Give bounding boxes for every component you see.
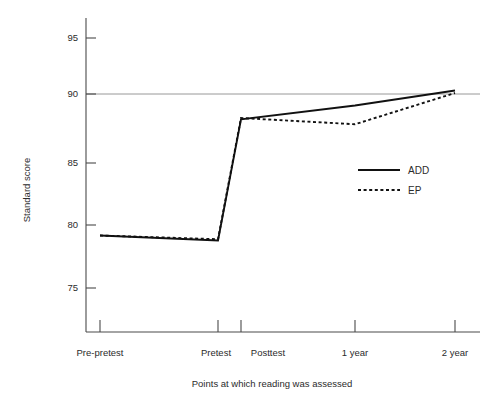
series-line-add (100, 91, 455, 241)
y-tick-label-95: 95 (67, 32, 78, 43)
x-tick-label-pretest: Pretest (201, 347, 231, 358)
chart-canvas: 95 90 85 80 75 Pre-pretest Pretest Postt… (0, 0, 498, 398)
x-axis-title: Points at which reading was assessed (192, 378, 353, 389)
y-axis-title: Standard score (21, 158, 32, 222)
x-tick-label-pre-pretest: Pre-pretest (77, 347, 124, 358)
line-chart-figure: 95 90 85 80 75 Pre-pretest Pretest Postt… (0, 0, 498, 398)
y-tick-label-85: 85 (67, 157, 78, 168)
legend-label-add: ADD (408, 165, 429, 176)
y-tick-label-80: 80 (67, 219, 78, 230)
x-tick-label-1-year: 1 year (342, 347, 368, 358)
y-tick-label-75: 75 (67, 282, 78, 293)
y-tick-label-90: 90 (67, 88, 78, 99)
x-tick-label-posttest: Posttest (251, 347, 286, 358)
legend: ADD EP (358, 165, 429, 196)
x-tick-label-2-year: 2 year (442, 347, 468, 358)
legend-label-ep: EP (408, 185, 422, 196)
